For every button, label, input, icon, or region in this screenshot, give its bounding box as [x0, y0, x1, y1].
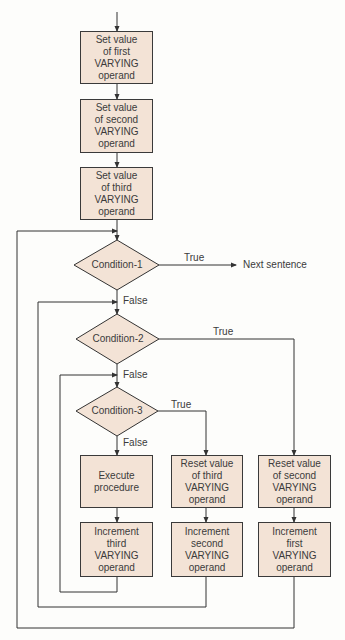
- condition-1-false-label: False: [123, 295, 147, 307]
- execute-procedure-box: Execute procedure: [80, 455, 153, 508]
- next-sentence-label: Next sentence: [243, 259, 307, 271]
- condition-1-true-label: True: [184, 252, 204, 264]
- condition-3-label: Condition-3: [91, 405, 142, 417]
- increment-first-operand-box: Increment first VARYING operand: [258, 522, 331, 577]
- condition-3-true-label: True: [171, 399, 191, 411]
- condition-3-false-label: False: [123, 437, 147, 449]
- reset-third-operand-box: Reset value of third VARYING operand: [171, 455, 243, 508]
- outer-loop-line: [17, 231, 294, 628]
- reset-second-operand-box: Reset value of second VARYING operand: [258, 455, 331, 508]
- increment-second-operand-box: Increment second VARYING operand: [171, 522, 243, 577]
- condition-2-label: Condition-2: [92, 333, 143, 345]
- condition-2-true-label: True: [213, 326, 233, 338]
- condition-2-false-label: False: [123, 369, 147, 381]
- set-second-operand-box: Set value of second VARYING operand: [80, 99, 153, 153]
- set-first-operand-box: Set value of first VARYING operand: [80, 31, 153, 84]
- increment-third-operand-box: Increment third VARYING operand: [80, 522, 153, 577]
- condition-1-label: Condition-1: [91, 259, 142, 271]
- set-third-operand-box: Set value of third VARYING operand: [80, 167, 153, 220]
